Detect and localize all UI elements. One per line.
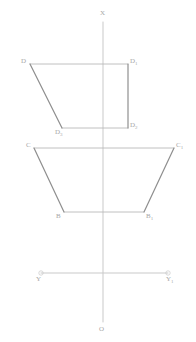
lbl-c1: C1 <box>176 142 183 149</box>
lower-edge-dark-0 <box>34 148 64 212</box>
lbl-y1-subscript: 1 <box>171 279 174 284</box>
lbl-y1: Y1 <box>166 276 174 283</box>
drawing-canvas: XODD1D2D3CC1BB1YY1 <box>0 0 196 342</box>
lbl-c1-subscript: 1 <box>181 145 184 150</box>
lbl-d3-subscript: 3 <box>60 132 63 137</box>
technical-drawing-svg <box>0 0 196 342</box>
lbl-b: B <box>56 213 61 220</box>
lbl-d1: D1 <box>130 58 138 65</box>
lbl-b1-subscript: 1 <box>151 216 154 221</box>
lbl-d: D <box>21 58 26 65</box>
upper-edge-dark-0 <box>30 64 62 128</box>
lbl-d2: D2 <box>130 122 138 129</box>
lbl-d3: D3 <box>55 129 63 136</box>
lbl-b1: B1 <box>146 213 153 220</box>
lbl-x: X <box>100 10 105 17</box>
lbl-c: C <box>26 142 31 149</box>
lbl-y: Y <box>36 276 41 283</box>
lbl-o: O <box>99 326 104 333</box>
lbl-d1-subscript: 1 <box>135 61 138 66</box>
lower-edge-dark-1 <box>144 148 174 212</box>
lbl-d2-subscript: 2 <box>135 125 138 130</box>
